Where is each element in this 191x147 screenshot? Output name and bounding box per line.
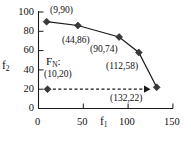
reference-point-label: (10,20) — [44, 70, 72, 80]
x-tick-label-50: 50 — [77, 117, 88, 128]
y-tick-label-100: 100 — [4, 7, 34, 18]
data-point-marker — [43, 18, 50, 25]
reference-set-colon: : — [58, 55, 61, 67]
y-tick-label-60: 60 — [4, 45, 34, 56]
data-point-marker — [153, 84, 160, 91]
reference-arrow-head — [144, 86, 151, 93]
chart-figure: 100 80 60 40 20 0 0 50 100 150 f2 f1 (9,… — [0, 0, 191, 147]
y-tick-label-20: 20 — [4, 84, 34, 95]
y-axis-title-subscript: 2 — [6, 64, 10, 73]
point-label-p5: (132,22) — [110, 94, 142, 104]
pareto-front-markers — [43, 18, 160, 91]
data-point-marker — [74, 22, 81, 29]
y-tick-label-0: 0 — [4, 103, 34, 114]
reference-set-label: FN: — [46, 56, 61, 67]
x-tick-label-150: 150 — [164, 117, 180, 128]
x-axis-ticks — [39, 104, 173, 109]
y-axis-ticks — [39, 12, 44, 109]
reference-point-marker — [44, 86, 51, 93]
x-axis-title-subscript: 1 — [104, 120, 108, 129]
y-tick-label-80: 80 — [4, 26, 34, 37]
point-label-p1: (9,90) — [50, 6, 73, 16]
point-label-p4: (112,58) — [106, 62, 138, 72]
x-tick-label-100: 100 — [119, 117, 135, 128]
x-axis-title: f1 — [100, 116, 108, 128]
point-label-p3: (90,74) — [90, 45, 118, 55]
point-label-p2: (44,86) — [62, 36, 90, 46]
reference-set-subscript: N — [52, 60, 57, 69]
y-axis-title: f2 — [2, 60, 10, 72]
x-tick-label-0: 0 — [35, 117, 40, 128]
